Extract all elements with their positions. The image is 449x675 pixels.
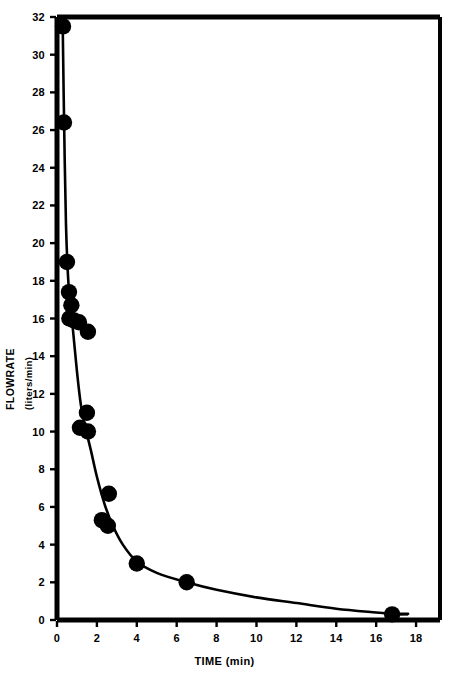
data-point [129, 555, 145, 571]
flowrate-vs-time-chart: 02468101214161820222426283032 0246810121… [0, 0, 449, 675]
x-tick-label: 4 [134, 632, 140, 644]
x-axis-title: TIME (min) [0, 655, 449, 667]
data-point [384, 606, 400, 622]
data-point [80, 323, 96, 339]
x-tick-label: 6 [173, 632, 179, 644]
y-tick-label: 32 [0, 11, 45, 23]
y-tick-label: 2 [0, 576, 45, 588]
data-point [178, 574, 194, 590]
x-tick-label: 12 [290, 632, 303, 644]
y-tick-label: 24 [0, 162, 45, 174]
x-tick-label: 18 [410, 632, 423, 644]
x-tick-label: 2 [94, 632, 100, 644]
y-tick-label: 20 [0, 237, 45, 249]
data-point-markers [55, 18, 401, 622]
y-tick-label: 30 [0, 49, 45, 61]
data-point [56, 114, 72, 130]
data-point [59, 254, 75, 270]
data-point [55, 18, 71, 34]
y-tick-label: 10 [0, 426, 45, 438]
x-tick-label: 8 [213, 632, 219, 644]
x-tick-label: 10 [250, 632, 263, 644]
y-tick-label: 4 [0, 539, 45, 551]
y-axis-title-group: FLOWRATE (liters/min) [0, 250, 46, 410]
y-tick-label: 26 [0, 124, 45, 136]
y-axis-units-label: (liters/min) [23, 357, 34, 410]
y-tick-label: 0 [0, 614, 45, 626]
data-point [79, 405, 95, 421]
y-tick-label: 8 [0, 463, 45, 475]
x-tick-label: 16 [370, 632, 383, 644]
y-axis-title: FLOWRATE [4, 348, 16, 410]
y-tick-label: 28 [0, 86, 45, 98]
y-tick-label: 6 [0, 501, 45, 513]
chart-plot-area [0, 0, 449, 675]
x-tick-label: 14 [330, 632, 343, 644]
x-tick-label: 0 [54, 632, 60, 644]
data-point [80, 423, 96, 439]
y-tick-label: 22 [0, 199, 45, 211]
data-point [100, 518, 116, 534]
data-point [101, 486, 117, 502]
